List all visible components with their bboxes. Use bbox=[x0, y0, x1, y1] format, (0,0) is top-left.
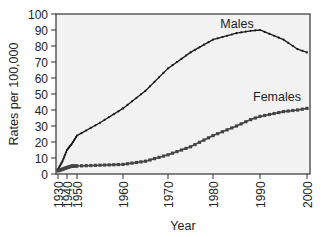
y-tick-label: 70 bbox=[35, 56, 49, 70]
males-marker bbox=[153, 81, 155, 83]
females-marker bbox=[121, 163, 124, 166]
females-marker bbox=[130, 162, 133, 165]
males-marker bbox=[63, 156, 65, 158]
females-marker bbox=[221, 130, 224, 133]
females-marker bbox=[211, 134, 214, 137]
females-marker bbox=[258, 115, 261, 118]
females-marker bbox=[240, 122, 243, 125]
females-marker bbox=[148, 158, 151, 161]
males-label: Males bbox=[220, 17, 253, 31]
y-tick-label: 90 bbox=[35, 24, 49, 38]
males-marker bbox=[117, 110, 119, 112]
y-tick-label: 40 bbox=[35, 104, 49, 118]
females-marker bbox=[268, 113, 271, 116]
males-marker bbox=[99, 122, 101, 124]
males-marker bbox=[131, 100, 133, 102]
females-marker bbox=[171, 152, 174, 155]
females-marker bbox=[112, 163, 115, 166]
males-marker bbox=[306, 51, 308, 53]
females-marker bbox=[80, 164, 83, 167]
males-marker bbox=[226, 35, 228, 37]
females-marker bbox=[189, 145, 192, 148]
males-marker bbox=[140, 93, 142, 95]
x-axis: 19301940195019601970198019902000 bbox=[52, 174, 315, 208]
females-marker bbox=[202, 138, 205, 141]
line-chart: 0102030405060708090100 19301940195019601… bbox=[0, 0, 322, 237]
females-marker bbox=[157, 156, 160, 159]
females-marker bbox=[89, 164, 92, 167]
females-marker bbox=[85, 164, 88, 167]
males-marker bbox=[282, 39, 284, 41]
males-marker bbox=[65, 151, 67, 153]
males-marker bbox=[158, 76, 160, 78]
males-marker bbox=[81, 132, 83, 134]
females-marker bbox=[108, 163, 111, 166]
y-tick-label: 50 bbox=[35, 88, 49, 102]
males-marker bbox=[254, 29, 256, 31]
males-marker bbox=[207, 41, 209, 43]
males-marker bbox=[122, 107, 124, 109]
males-marker bbox=[162, 72, 164, 74]
males-marker bbox=[167, 67, 169, 69]
males-marker bbox=[104, 119, 106, 121]
females-marker bbox=[94, 164, 97, 167]
females-marker bbox=[296, 108, 299, 111]
males-marker bbox=[149, 85, 151, 87]
females-marker bbox=[153, 157, 156, 160]
males-marker bbox=[268, 33, 270, 35]
females-marker bbox=[291, 109, 294, 112]
males-marker bbox=[62, 158, 64, 160]
males-marker bbox=[94, 124, 96, 126]
y-tick-label: 60 bbox=[35, 72, 49, 86]
males-marker bbox=[301, 50, 303, 52]
y-tick-label: 100 bbox=[28, 8, 48, 22]
males-marker bbox=[90, 127, 92, 129]
males-marker bbox=[176, 61, 178, 63]
females-marker bbox=[244, 120, 247, 123]
males-marker bbox=[240, 31, 242, 33]
males-marker bbox=[61, 160, 63, 162]
males-marker bbox=[221, 36, 223, 38]
females-marker bbox=[301, 108, 304, 111]
males-marker bbox=[212, 39, 214, 41]
females-marker bbox=[166, 153, 169, 156]
females-marker bbox=[198, 141, 201, 144]
males-marker bbox=[235, 32, 237, 34]
males-marker bbox=[113, 113, 115, 115]
x-tick-label: 1980 bbox=[207, 181, 221, 208]
females-marker bbox=[226, 128, 229, 131]
females-marker bbox=[98, 164, 101, 167]
females-marker bbox=[305, 107, 308, 110]
females-marker bbox=[126, 162, 129, 165]
y-tick-label: 30 bbox=[35, 120, 49, 134]
males-marker bbox=[180, 58, 182, 60]
males-marker bbox=[217, 37, 219, 39]
males-marker bbox=[287, 42, 289, 44]
females-marker bbox=[277, 111, 280, 114]
males-marker bbox=[171, 64, 173, 66]
females-marker bbox=[254, 116, 257, 119]
males-marker bbox=[203, 44, 205, 46]
females-marker bbox=[175, 150, 178, 153]
males-marker bbox=[126, 104, 128, 106]
females-marker bbox=[180, 148, 183, 151]
x-axis-title: Year bbox=[170, 219, 195, 233]
females-marker bbox=[282, 110, 285, 113]
males-marker bbox=[185, 55, 187, 57]
females-marker bbox=[287, 109, 290, 112]
y-axis-title: Rates per 100,000 bbox=[7, 43, 21, 146]
females-label: Females bbox=[253, 90, 301, 104]
males-marker bbox=[85, 129, 87, 131]
females-marker bbox=[162, 154, 165, 157]
females-marker bbox=[230, 126, 233, 129]
females-marker bbox=[193, 143, 196, 146]
males-marker bbox=[76, 135, 78, 137]
males-marker bbox=[198, 46, 200, 48]
males-marker bbox=[231, 33, 233, 35]
males-marker bbox=[64, 153, 66, 155]
females-marker bbox=[184, 147, 187, 150]
males-marker bbox=[264, 31, 266, 33]
females-marker bbox=[235, 124, 238, 127]
y-tick-label: 20 bbox=[35, 136, 49, 150]
males-marker bbox=[273, 35, 275, 37]
